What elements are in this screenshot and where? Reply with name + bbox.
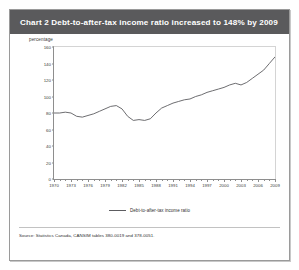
x-axis-tick-mark bbox=[179, 179, 180, 181]
x-axis-tick-mark bbox=[77, 179, 78, 181]
x-axis-tick-label: 1985 bbox=[134, 183, 144, 188]
x-axis-tick-label: 1970 bbox=[49, 183, 59, 188]
y-axis-tick-mark bbox=[52, 113, 55, 114]
x-axis-tick-label: 1976 bbox=[83, 183, 93, 188]
x-axis-tick-label: 2000 bbox=[219, 183, 229, 188]
x-axis-tick-mark bbox=[54, 179, 55, 182]
y-axis-tick-mark bbox=[52, 47, 55, 48]
legend-label-debt-ratio: Debt-to-after-tax income ratio bbox=[130, 208, 190, 213]
chart-figure: Chart 2 Debt-to-after-tax income ratio i… bbox=[9, 9, 290, 261]
x-axis-tick-mark bbox=[207, 179, 208, 182]
source-divider bbox=[19, 227, 280, 228]
chart-legend: Debt-to-after-tax income ratio bbox=[10, 208, 289, 213]
x-axis-tick-label: 1979 bbox=[100, 183, 110, 188]
x-axis-tick-mark bbox=[71, 179, 72, 182]
x-axis-tick-mark bbox=[196, 179, 197, 181]
plot-wrapper: 0204060801001201401601970197319761979198… bbox=[29, 46, 279, 198]
y-axis-tick-mark bbox=[52, 63, 55, 64]
x-axis-tick-mark bbox=[201, 179, 202, 181]
x-axis-tick-label: 1982 bbox=[117, 183, 127, 188]
x-axis-tick-mark bbox=[145, 179, 146, 181]
x-axis-tick-mark bbox=[150, 179, 151, 181]
source-note: Source: Statistics Canada, CANSIM tables… bbox=[19, 233, 154, 238]
x-axis-tick-mark bbox=[167, 179, 168, 181]
plot-area: 0204060801001201401601970197319761979198… bbox=[53, 46, 276, 180]
chart-title-bar: Chart 2 Debt-to-after-tax income ratio i… bbox=[10, 10, 289, 34]
x-axis-tick-mark bbox=[128, 179, 129, 181]
y-axis-tick-mark bbox=[52, 129, 55, 130]
x-axis-tick-mark bbox=[60, 179, 61, 181]
x-axis-tick-mark bbox=[190, 179, 191, 182]
x-axis-tick-mark bbox=[241, 179, 242, 182]
x-axis-tick-mark bbox=[133, 179, 134, 181]
x-axis-tick-label: 2006 bbox=[253, 183, 263, 188]
x-axis-tick-label: 2009 bbox=[270, 183, 280, 188]
x-axis-tick-mark bbox=[173, 179, 174, 182]
x-axis-tick-mark bbox=[99, 179, 100, 181]
x-axis-tick-mark bbox=[218, 179, 219, 181]
x-axis-tick-mark bbox=[65, 179, 66, 181]
x-axis-tick-mark bbox=[258, 179, 259, 182]
x-axis-tick-mark bbox=[122, 179, 123, 182]
x-axis-tick-label: 1973 bbox=[66, 183, 76, 188]
x-axis-tick-mark bbox=[213, 179, 214, 181]
y-axis-tick-mark bbox=[52, 96, 55, 97]
x-axis-tick-mark bbox=[252, 179, 253, 181]
x-axis-tick-mark bbox=[247, 179, 248, 181]
x-axis-tick-label: 1988 bbox=[151, 183, 161, 188]
x-axis-tick-mark bbox=[105, 179, 106, 182]
x-axis-tick-label: 1991 bbox=[168, 183, 178, 188]
x-axis-tick-mark bbox=[230, 179, 231, 181]
x-axis-tick-mark bbox=[269, 179, 270, 181]
x-axis-tick-mark bbox=[94, 179, 95, 181]
x-axis-tick-label: 1994 bbox=[185, 183, 195, 188]
x-axis-tick-mark bbox=[235, 179, 236, 181]
x-axis-tick-mark bbox=[116, 179, 117, 181]
y-axis-tick-mark bbox=[52, 80, 55, 81]
page-title: Chart 2 Debt-to-after-tax income ratio i… bbox=[10, 18, 278, 27]
x-axis-tick-mark bbox=[224, 179, 225, 182]
x-axis-tick-mark bbox=[184, 179, 185, 181]
x-axis-tick-mark bbox=[111, 179, 112, 181]
x-axis-tick-label: 1997 bbox=[202, 183, 212, 188]
series-line-debt-ratio bbox=[54, 57, 275, 121]
legend-swatch-debt-ratio bbox=[109, 210, 126, 211]
y-axis-tick-mark bbox=[52, 162, 55, 163]
x-axis-tick-mark bbox=[162, 179, 163, 181]
y-axis-label: percentage bbox=[29, 37, 53, 42]
y-axis-tick-mark bbox=[52, 146, 55, 147]
x-axis-tick-mark bbox=[275, 179, 276, 182]
x-axis-tick-mark bbox=[82, 179, 83, 181]
x-axis-tick-label: 2003 bbox=[236, 183, 246, 188]
x-axis-tick-mark bbox=[264, 179, 265, 181]
x-axis-tick-mark bbox=[139, 179, 140, 182]
chart-body: percentage 02040608010012014016019701973… bbox=[10, 34, 289, 260]
series-line-chart bbox=[54, 47, 275, 179]
x-axis-tick-mark bbox=[88, 179, 89, 182]
x-axis-tick-mark bbox=[156, 179, 157, 182]
